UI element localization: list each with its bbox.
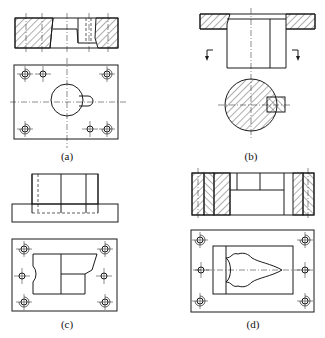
panel-a: [10, 13, 126, 148]
panel-c-plan-view: [12, 239, 117, 311]
pin-icon: [35, 66, 51, 82]
hole-icon: [192, 293, 208, 309]
hole-icon: [99, 121, 115, 137]
pin-icon: [82, 121, 98, 137]
pin-icon: [193, 262, 209, 278]
hole-icon: [297, 232, 313, 248]
panel-b-section-view: [200, 8, 315, 72]
hole-icon: [297, 293, 313, 309]
hole-icon: [17, 66, 33, 82]
panel-d-label: (d): [233, 318, 273, 330]
panel-b: [200, 8, 315, 138]
panel-d: [191, 168, 314, 312]
panel-b-cross-section: [218, 74, 290, 138]
panel-a-section-view: [15, 13, 118, 53]
hole-icon: [192, 232, 208, 248]
panel-b-label: (b): [231, 150, 271, 162]
panel-a-plan-view: [10, 58, 126, 148]
panel-d-section-view: [192, 168, 314, 220]
pin-icon: [297, 262, 313, 278]
hole-icon: [97, 241, 113, 257]
pin-icon: [96, 268, 112, 284]
panel-d-plan-view: [191, 230, 314, 312]
hole-icon: [16, 294, 32, 310]
hole-icon: [97, 294, 113, 310]
pin-icon: [14, 268, 30, 284]
panel-c: [12, 174, 118, 311]
hole-icon: [17, 121, 33, 137]
panel-c-label: (c): [47, 318, 87, 330]
technical-drawing: [0, 0, 325, 338]
panel-a-label: (a): [47, 150, 87, 162]
panel-c-front-view: [12, 174, 118, 222]
hole-icon: [99, 66, 115, 82]
hole-icon: [16, 241, 32, 257]
